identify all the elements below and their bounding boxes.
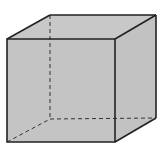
cube-front-face — [7, 39, 115, 142]
cube-diagram — [0, 0, 168, 153]
